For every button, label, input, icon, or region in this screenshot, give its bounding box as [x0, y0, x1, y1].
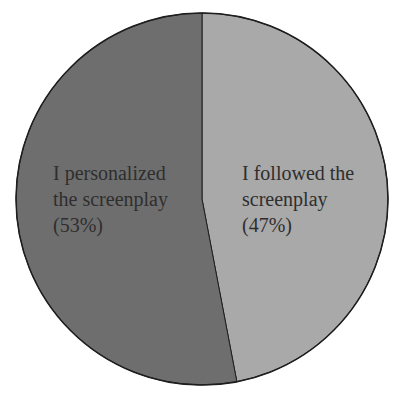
slice-label-personalized: I personalized the screenplay (53%) — [53, 160, 168, 238]
slice-label-followed: I followed the screenplay (47%) — [242, 160, 354, 238]
